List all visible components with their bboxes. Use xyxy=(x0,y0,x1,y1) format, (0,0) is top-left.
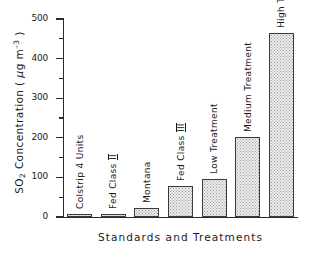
y-axis-title-superscript: –3 xyxy=(12,39,21,48)
y-tick-label: 400 xyxy=(18,54,48,63)
y-tick-label: 500 xyxy=(18,14,48,23)
y-tick-label: 300 xyxy=(18,93,48,102)
bar-group[interactable]: Fed Class II xyxy=(101,19,126,217)
bar-label: Low Treatment xyxy=(209,103,219,174)
y-axis-title-mu: μ xyxy=(13,70,26,77)
bar[interactable] xyxy=(134,208,159,217)
bar-label: Fed Class III xyxy=(176,123,186,181)
bar-label: Fed Class II xyxy=(108,154,118,209)
y-tick-label: 0 xyxy=(18,212,48,221)
y-tick-label: 200 xyxy=(18,133,48,142)
x-axis-title: Standards and Treatments xyxy=(63,231,298,243)
so2-bar-chart-figure: SO2 Concentration ( μg m–3 ) 01002003004… xyxy=(0,0,317,254)
bar-label: Montana xyxy=(142,161,152,203)
bar-group[interactable]: High Treatment xyxy=(269,19,294,217)
roman-numeral: III xyxy=(176,123,186,132)
roman-numeral: II xyxy=(108,154,118,160)
bar-group[interactable]: Colstrip 4 Units xyxy=(67,19,92,217)
y-axis-title-mid: Concentration ( xyxy=(13,78,25,173)
y-axis-title: SO2 Concentration ( μg m–3 ) xyxy=(12,8,27,218)
bar-group[interactable]: Montana xyxy=(134,19,159,217)
bar[interactable] xyxy=(235,137,260,217)
bar-label: High Treatment xyxy=(276,0,286,28)
bar[interactable] xyxy=(101,214,126,217)
bar-group[interactable]: Medium Treatment xyxy=(235,19,260,217)
bar-label: Colstrip 4 Units xyxy=(75,134,85,208)
bar[interactable] xyxy=(67,214,92,217)
bar[interactable] xyxy=(168,186,193,217)
bar-label: Medium Treatment xyxy=(243,42,253,132)
bar[interactable] xyxy=(202,179,227,217)
bar[interactable] xyxy=(269,33,294,217)
y-tick-label: 100 xyxy=(18,172,48,181)
bar-group[interactable]: Low Treatment xyxy=(202,19,227,217)
bar-series: Colstrip 4 UnitsFed Class IIMontanaFed C… xyxy=(63,19,298,217)
y-axis-title-suffix: ) xyxy=(13,31,25,39)
x-axis-line xyxy=(63,217,298,218)
bar-group[interactable]: Fed Class III xyxy=(168,19,193,217)
